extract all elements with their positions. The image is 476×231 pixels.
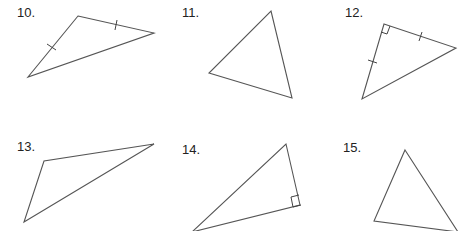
triangle-14 [192,144,301,231]
triangle-13 [24,144,154,222]
triangles-canvas [0,0,476,231]
triangle-15 [374,150,458,231]
triangle-11 [209,11,292,98]
triangle-12 [362,24,456,99]
triangle-10 [28,16,154,77]
